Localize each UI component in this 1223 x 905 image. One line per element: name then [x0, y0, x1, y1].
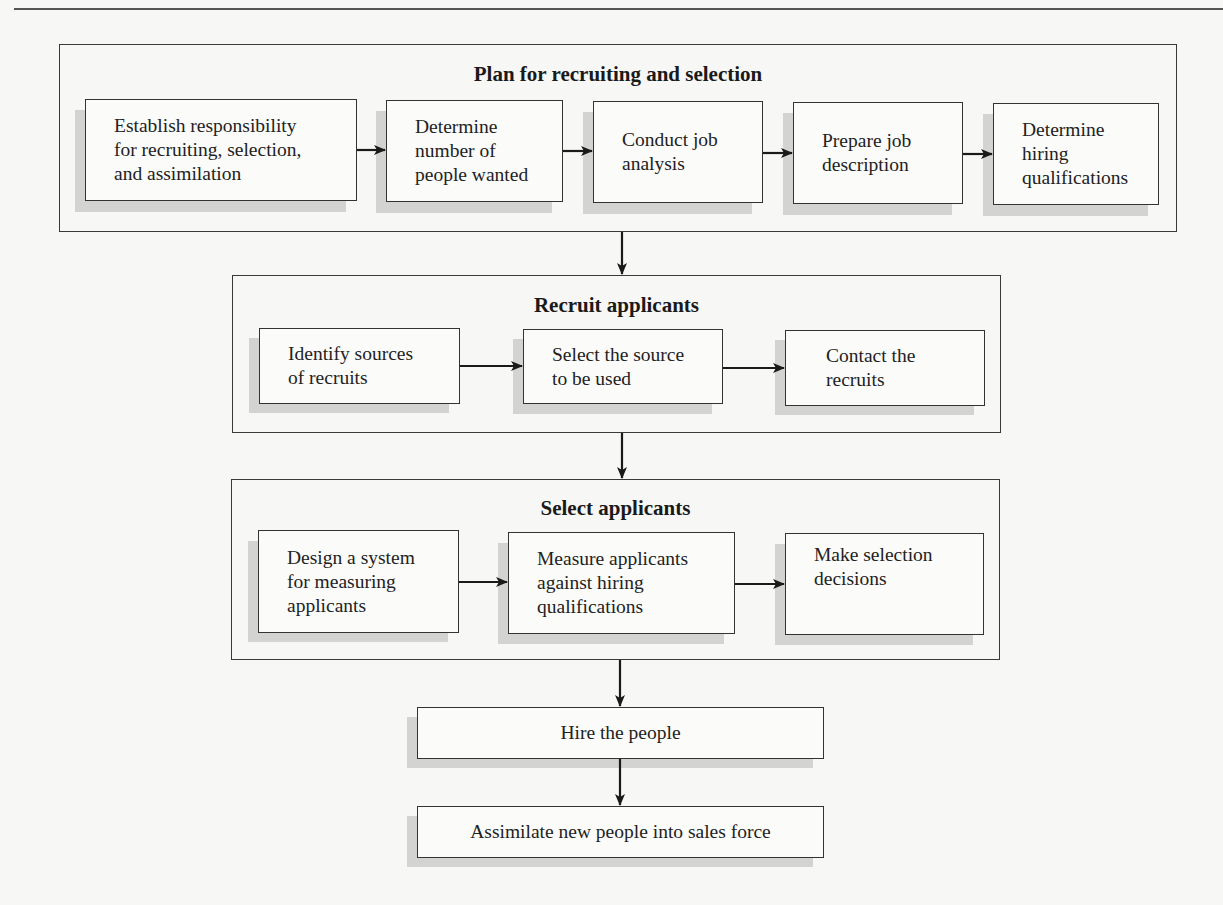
flow-arrows: [0, 0, 1223, 905]
